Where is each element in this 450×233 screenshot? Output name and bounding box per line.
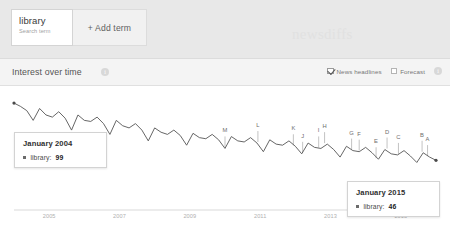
add-term-button[interactable]: + Add term <box>73 9 147 46</box>
news-marker-g[interactable]: G <box>349 130 354 136</box>
tooltip-value-row: library: 99 <box>23 154 98 161</box>
x-tick-2009: 2009 <box>183 213 196 219</box>
news-marker-l[interactable]: L <box>256 122 259 128</box>
tooltip-series-label: library: <box>30 154 51 161</box>
news-marker-e[interactable]: E <box>374 138 378 144</box>
tooltip-january-2004[interactable]: January 2004 library: 99 <box>14 132 107 168</box>
google-trends-screenshot: library Search term + Add term newsdiffs… <box>0 0 450 233</box>
checkbox-checked-icon[interactable] <box>327 68 334 75</box>
x-tick-2011: 2011 <box>254 213 266 219</box>
option-forecast[interactable]: Forecast <box>391 68 425 75</box>
tooltip-date: January 2004 <box>23 139 98 148</box>
interest-over-time-header: Interest over time i News headlines Fore… <box>0 59 450 86</box>
chart-options: News headlines Forecast i <box>327 67 442 75</box>
options-info-icon[interactable]: i <box>434 67 442 75</box>
checkbox-icon[interactable] <box>391 68 398 75</box>
data-point-end[interactable] <box>434 159 437 162</box>
option-news-headlines-label: News headlines <box>337 68 382 75</box>
option-news-headlines[interactable]: News headlines <box>327 68 382 75</box>
watermark-text: newsdiffs <box>292 26 353 43</box>
news-marker-a[interactable]: A <box>426 136 430 142</box>
x-tick-2013: 2013 <box>324 213 337 219</box>
tooltip-series-label: library: <box>363 203 384 210</box>
search-term-label: library <box>19 15 66 26</box>
tooltip-series-value: 99 <box>56 154 64 161</box>
series-swatch-icon <box>23 156 26 159</box>
search-term-chip-library[interactable]: library Search term <box>11 9 73 46</box>
term-chip-row: library Search term + Add term <box>11 9 147 46</box>
tooltip-date: January 2015 <box>356 188 431 197</box>
series-swatch-icon <box>356 205 359 208</box>
news-marker-f[interactable]: F <box>357 131 361 137</box>
news-marker-j[interactable]: J <box>301 133 304 139</box>
tooltip-series-value: 46 <box>389 203 397 210</box>
news-marker-b[interactable]: B <box>420 132 424 138</box>
tooltip-january-2015[interactable]: January 2015 library: 46 <box>347 181 440 217</box>
news-marker-c[interactable]: C <box>396 134 400 140</box>
x-tick-2005: 2005 <box>43 213 56 219</box>
search-term-sublabel: Search term <box>19 27 66 35</box>
data-point-start[interactable] <box>12 101 15 104</box>
page-title: Interest over time <box>12 67 82 77</box>
tooltip-value-row: library: 46 <box>356 203 431 210</box>
options-info-glyph: i <box>434 67 442 75</box>
info-icon[interactable]: i <box>101 68 109 76</box>
news-marker-h[interactable]: H <box>322 123 326 129</box>
news-marker-k[interactable]: K <box>291 125 295 131</box>
x-tick-2007: 2007 <box>113 213 126 219</box>
news-marker-m[interactable]: M <box>223 127 228 133</box>
search-terms-bar: library Search term + Add term newsdiffs <box>0 0 450 59</box>
news-marker-d[interactable]: D <box>385 129 389 135</box>
option-forecast-label: Forecast <box>400 68 425 75</box>
news-marker-i[interactable]: I <box>318 127 320 133</box>
